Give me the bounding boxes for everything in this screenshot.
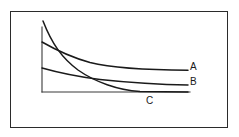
series-label-b: B — [190, 77, 197, 87]
series-label-a: A — [190, 62, 197, 72]
plot-area — [0, 0, 239, 137]
series-label-c: C — [146, 96, 153, 106]
figure-root: A B C — [0, 0, 239, 137]
